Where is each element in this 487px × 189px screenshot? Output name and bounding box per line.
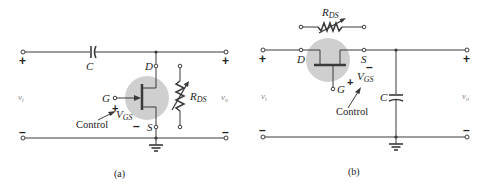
output-plus-a: +: [222, 54, 229, 68]
input-voltage-label-a: vi: [18, 92, 24, 103]
drain-label-a: D: [144, 60, 153, 72]
vgs-plus-b: +: [347, 76, 353, 88]
control-label-b: Control: [336, 106, 368, 117]
variable-resistor-rds-a: [172, 64, 189, 129]
input-plus-b: +: [259, 52, 266, 66]
caption-b: (b): [348, 166, 360, 178]
ground-icon-b: [389, 137, 403, 150]
variable-resistor-rds-b: [299, 18, 366, 33]
gate-label-a: G: [102, 92, 110, 104]
panel-a-labels: + – + – vi vo C D G S RDS + VGS – Contro…: [18, 54, 229, 180]
capacitor-label-a: C: [86, 60, 94, 72]
panel-b-labels: RDS + – + – vi vo D S G C – + VGS Contro…: [259, 6, 470, 178]
source-terminal-b: [362, 48, 366, 52]
source-terminal-a: [154, 125, 158, 129]
control-label-a: Control: [76, 119, 108, 130]
caption-a: (a): [114, 168, 125, 180]
rds-label-a: RDS: [189, 90, 207, 104]
drain-terminal-b: [299, 48, 303, 52]
control-arrow-b: [355, 87, 361, 94]
output-minus-a: –: [222, 125, 229, 139]
source-label-a: S: [147, 121, 153, 133]
jfet-highlight-b: [306, 38, 350, 82]
gate-terminal-a: [113, 96, 117, 100]
input-voltage-label-b: vi: [261, 91, 267, 102]
output-minus-b: –: [463, 123, 470, 137]
panel-b-circuit: [261, 18, 469, 150]
vgs-minus-b: –: [366, 60, 373, 74]
drain-label-b: D: [296, 53, 305, 65]
output-voltage-label-a: vo: [221, 92, 228, 103]
input-minus-a: –: [19, 125, 26, 139]
drain-terminal-a: [154, 64, 158, 68]
output-plus-b: +: [463, 52, 470, 66]
vgs-minus-a: –: [133, 119, 140, 133]
jfet-circuit-figure: + – + – vi vo C D G S RDS + VGS – Contro…: [0, 0, 487, 189]
output-voltage-label-b: vo: [462, 91, 469, 102]
gate-terminal-b: [331, 87, 335, 91]
rds-label-b: RDS: [321, 6, 339, 20]
input-plus-a: +: [19, 54, 26, 68]
input-minus-b: –: [259, 123, 266, 137]
ground-icon-a: [149, 138, 163, 151]
capacitor-label-b: C: [380, 91, 388, 103]
gate-label-b: G: [337, 83, 345, 95]
